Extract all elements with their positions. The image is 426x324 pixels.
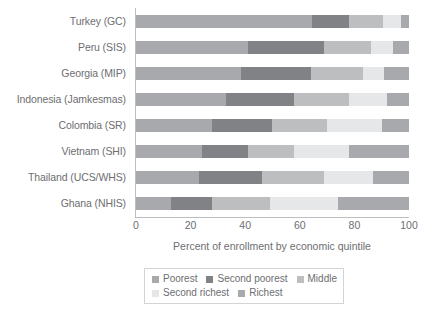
legend-item[interactable]: Second poorest <box>206 274 287 284</box>
x-axis-line <box>135 217 409 218</box>
y-axis-label: Ghana (NHIS) <box>0 190 131 216</box>
stacked-bar <box>136 15 409 28</box>
legend-label: Richest <box>249 288 282 298</box>
bar-segment <box>373 171 408 184</box>
legend-label: Second richest <box>163 288 229 298</box>
bar-segment <box>199 171 262 184</box>
legend-label: Middle <box>308 274 337 284</box>
y-axis-label: Georgia (MIP) <box>0 60 131 86</box>
legend-swatch-icon <box>152 290 159 297</box>
bar-segment <box>324 41 370 54</box>
y-axis-category-labels: Turkey (GC)Peru (SIS)Georgia (MIP)Indone… <box>0 8 131 216</box>
legend-row: Second richestRichest <box>152 288 336 298</box>
legend-label: Poorest <box>163 274 197 284</box>
bar-segment <box>324 171 373 184</box>
bar-segment <box>171 197 212 210</box>
bar-row <box>136 164 409 190</box>
x-axis-tick-label: 60 <box>294 220 306 231</box>
bar-segment <box>312 15 349 28</box>
x-axis-title: Percent of enrollment by economic quinti… <box>135 240 409 252</box>
bar-segment <box>294 145 349 158</box>
bar-segment <box>272 119 327 132</box>
bar-segment <box>248 41 324 54</box>
legend-swatch-icon <box>238 290 245 297</box>
x-axis-tick-label: 80 <box>349 220 361 231</box>
legend-item[interactable]: Richest <box>238 288 282 298</box>
bar-segment <box>349 145 409 158</box>
bar-segment <box>294 93 349 106</box>
stacked-bar <box>136 67 409 80</box>
bar-segment <box>393 41 409 54</box>
bar-segment <box>202 145 248 158</box>
x-axis-tick-label: 20 <box>185 220 197 231</box>
x-axis-tick-label: 40 <box>239 220 251 231</box>
bar-segment <box>212 197 269 210</box>
bar-segment <box>136 197 171 210</box>
chart-legend: PoorestSecond poorestMiddleSecond riches… <box>144 268 344 304</box>
bar-segment <box>387 93 409 106</box>
legend-row: PoorestSecond poorestMiddle <box>152 274 336 284</box>
bar-segment <box>349 15 383 28</box>
x-axis-tick-label: 0 <box>133 220 139 231</box>
y-axis-label: Thailand (UCS/WHS) <box>0 164 131 190</box>
x-axis-tick-label: 100 <box>400 220 418 231</box>
bar-segment <box>226 93 294 106</box>
bar-segment <box>136 93 226 106</box>
bar-segment <box>382 119 409 132</box>
bar-segment <box>262 171 325 184</box>
legend-swatch-icon <box>206 276 213 283</box>
legend-item[interactable]: Middle <box>297 274 337 284</box>
bar-segment <box>241 67 311 80</box>
legend-label: Second poorest <box>217 274 287 284</box>
stacked-bar <box>136 119 409 132</box>
y-axis-label: Turkey (GC) <box>0 8 131 34</box>
stacked-bar <box>136 93 409 106</box>
bar-segment <box>384 67 409 80</box>
bar-series-container <box>136 8 409 216</box>
bar-segment <box>136 119 212 132</box>
bar-row <box>136 86 409 112</box>
y-axis-label: Vietnam (SHI) <box>0 138 131 164</box>
stacked-bar <box>136 171 409 184</box>
plot-area: Turkey (GC)Peru (SIS)Georgia (MIP)Indone… <box>0 0 426 250</box>
bar-row <box>136 190 409 216</box>
y-axis-label: Colombia (SR) <box>0 112 131 138</box>
bar-segment <box>311 67 363 80</box>
bar-segment <box>363 67 385 80</box>
bar-segment <box>136 41 248 54</box>
bar-segment <box>270 197 338 210</box>
bar-segment <box>371 41 393 54</box>
bar-row <box>136 138 409 164</box>
bar-segment <box>327 119 382 132</box>
legend-item[interactable]: Second richest <box>152 288 229 298</box>
y-axis-label: Indonesia (Jamkesmas) <box>0 86 131 112</box>
bar-row <box>136 8 409 34</box>
bar-segment <box>401 15 409 28</box>
stacked-bar <box>136 41 409 54</box>
stacked-bar-chart: Turkey (GC)Peru (SIS)Georgia (MIP)Indone… <box>0 0 426 324</box>
stacked-bar <box>136 145 409 158</box>
stacked-bar <box>136 197 409 210</box>
bar-segment <box>349 93 387 106</box>
y-axis-label: Peru (SIS) <box>0 34 131 60</box>
bar-segment <box>136 145 202 158</box>
bar-row <box>136 34 409 60</box>
bar-segment <box>136 15 312 28</box>
bar-segment <box>248 145 294 158</box>
bar-row <box>136 112 409 138</box>
x-axis-tick-labels: 020406080100 <box>136 220 409 236</box>
legend-swatch-icon <box>297 276 304 283</box>
bar-segment <box>338 197 409 210</box>
bar-row <box>136 60 409 86</box>
legend-swatch-icon <box>152 276 159 283</box>
bar-segment <box>136 171 199 184</box>
bar-segment <box>212 119 272 132</box>
bar-segment <box>136 67 241 80</box>
bar-segment <box>383 15 401 28</box>
legend-item[interactable]: Poorest <box>152 274 197 284</box>
